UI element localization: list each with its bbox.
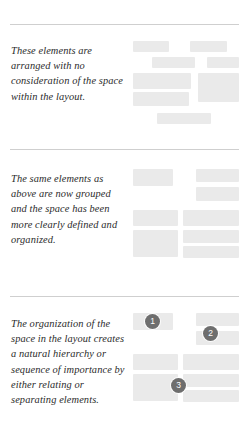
placeholder-block — [133, 354, 178, 370]
block-group-hierarchy: 123 — [133, 296, 249, 438]
placeholder-block — [133, 230, 178, 257]
block-group-grouped — [133, 149, 249, 296]
placeholder-block — [183, 374, 239, 387]
placeholder-block — [183, 210, 239, 226]
placeholder-block — [133, 92, 189, 106]
placeholder-block — [133, 169, 173, 186]
placeholder-block — [152, 57, 195, 68]
placeholder-block — [190, 41, 227, 52]
placeholder-block — [133, 210, 178, 226]
placeholder-block — [183, 246, 239, 258]
placeholder-block — [183, 390, 239, 402]
placeholder-block — [198, 73, 239, 102]
layout-principles-diagram: These elements are arranged with no cons… — [0, 0, 249, 438]
placeholder-block — [183, 354, 239, 370]
section-caption: These elements are arranged with no cons… — [11, 43, 129, 104]
placeholder-block — [133, 73, 191, 89]
number-badge-1: 1 — [145, 314, 160, 329]
placeholder-block — [133, 41, 169, 52]
number-badge-2: 2 — [203, 326, 218, 341]
placeholder-block — [196, 313, 239, 326]
placeholder-block — [196, 187, 239, 201]
block-group-ungrouped — [133, 24, 249, 149]
placeholder-block — [183, 230, 239, 243]
placeholder-block — [207, 57, 239, 68]
section-caption: The organization of the space in the lay… — [11, 316, 129, 407]
number-badge-3: 3 — [171, 378, 186, 393]
placeholder-block — [196, 169, 239, 182]
placeholder-block — [157, 113, 211, 124]
section-hierarchy: The organization of the space in the lay… — [0, 296, 249, 438]
section-ungrouped: These elements are arranged with no cons… — [0, 24, 249, 149]
section-grouped: The same elements as above are now group… — [0, 149, 249, 296]
section-caption: The same elements as above are now group… — [11, 171, 129, 247]
